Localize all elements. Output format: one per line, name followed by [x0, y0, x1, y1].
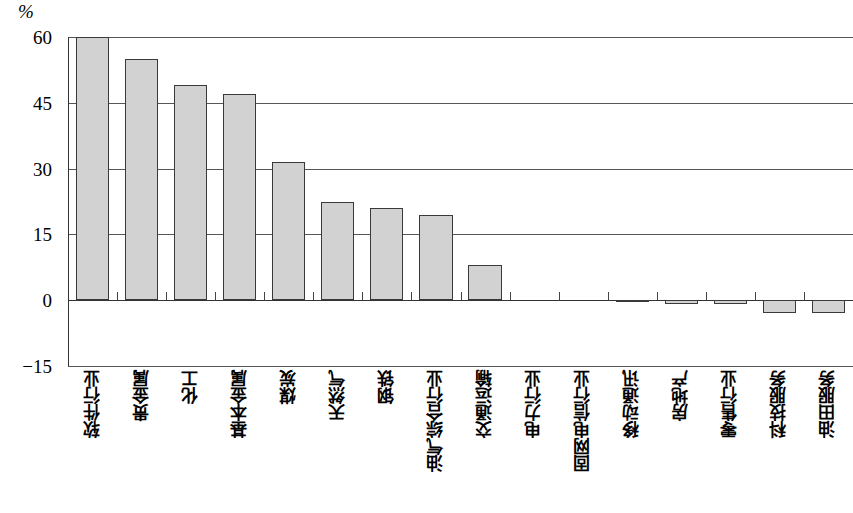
x-axis-label: 房地产 — [672, 370, 689, 421]
x-axis-tick — [804, 292, 805, 300]
x-axis-label: 固网电信行业 — [574, 370, 591, 472]
x-axis-label: 移动通讯 — [623, 370, 640, 438]
y-axis: 604530150−15 — [0, 0, 62, 513]
bar — [812, 300, 845, 313]
y-axis-tick-label: 15 — [33, 225, 52, 244]
x-axis-tick — [264, 292, 265, 300]
x-axis-tick — [461, 292, 462, 300]
x-axis-label: 电力行业 — [525, 370, 542, 438]
bar — [76, 37, 109, 300]
x-axis-category-labels: 软件行业贵金属化工基本金属煤炭天然气钢铁油气综合行业交通运输电力行业固网电信行业… — [68, 370, 853, 513]
y-axis-tick-label: 45 — [33, 93, 52, 112]
x-axis-label: 软件行业 — [84, 370, 101, 438]
x-axis-label: 科技服务 — [770, 370, 787, 438]
x-axis-label: 交通运输 — [476, 370, 493, 438]
bar — [419, 215, 452, 301]
x-axis-tick — [559, 292, 560, 300]
plot-area — [68, 37, 853, 366]
bar — [763, 300, 796, 313]
x-axis-label: 煤炭 — [280, 370, 297, 404]
x-axis-tick — [755, 292, 756, 300]
x-axis-tick — [362, 292, 363, 300]
bar — [616, 300, 649, 302]
bar — [125, 59, 158, 300]
y-axis-tick-label: −15 — [22, 357, 52, 376]
bar — [370, 208, 403, 300]
x-axis-label: 天然气 — [329, 370, 346, 421]
x-axis-label: 贵金属 — [133, 370, 150, 421]
bar — [174, 85, 207, 300]
y-axis-tick-label: 60 — [33, 28, 52, 47]
y-axis-tick-label: 30 — [33, 159, 52, 178]
x-axis-tick — [411, 292, 412, 300]
bar — [321, 202, 354, 301]
x-axis-tick — [510, 292, 511, 300]
bar — [714, 300, 747, 304]
bar — [665, 300, 698, 304]
x-axis-tick — [215, 292, 216, 300]
bar-chart: % 604530150−15 软件行业贵金属化工基本金属煤炭天然气钢铁油气综合行… — [0, 0, 853, 513]
x-axis-label: 零售行业 — [721, 370, 738, 438]
x-axis-tick — [313, 292, 314, 300]
bar — [468, 265, 501, 300]
x-axis-tick — [117, 292, 118, 300]
x-axis-label: 钢铁 — [378, 370, 395, 404]
x-axis-label: 基本金属 — [231, 370, 248, 438]
x-axis-tick — [706, 292, 707, 300]
gridline — [68, 366, 853, 367]
x-axis-tick — [608, 292, 609, 300]
gridline — [68, 37, 853, 38]
y-axis-tick-label: 0 — [43, 291, 53, 310]
y-axis-spine — [68, 37, 69, 366]
bar — [223, 94, 256, 300]
x-axis-label: 化工 — [182, 370, 199, 404]
x-axis-label: 油气综合行业 — [427, 370, 444, 472]
x-axis-label: 油田服务 — [819, 370, 836, 438]
bar — [272, 162, 305, 300]
x-axis-tick — [166, 292, 167, 300]
x-axis-tick — [657, 292, 658, 300]
